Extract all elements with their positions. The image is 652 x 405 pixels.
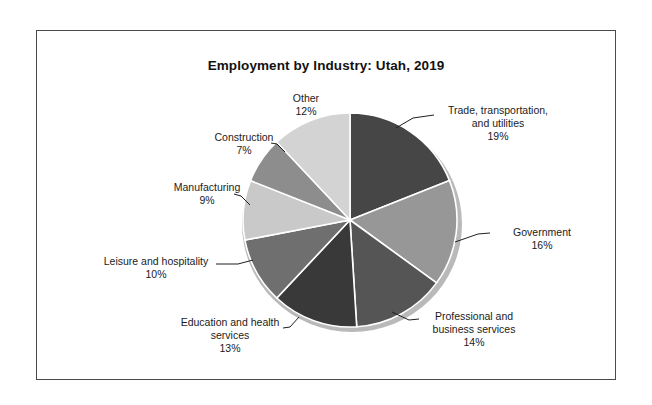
slice-label-other: Other 12% [250, 92, 362, 118]
slice-label-education: Education and health services 13% [170, 316, 290, 355]
pie-chart [0, 0, 652, 405]
slice-label-professional-name: Professional and [435, 310, 513, 322]
slice-label-education-name2: services [170, 329, 290, 342]
figure-canvas: Employment by Industry: Utah, 2019 Other… [0, 0, 652, 405]
slice-label-manufacturing-percent: 9% [148, 194, 266, 207]
slice-label-professional: Professional and business services 14% [413, 310, 535, 349]
slice-label-government-name: Government [513, 226, 571, 238]
slice-label-education-percent: 13% [170, 342, 290, 355]
slice-label-construction: Construction 7% [185, 131, 303, 157]
slice-label-trade-percent: 19% [428, 130, 568, 143]
slice-label-trade: Trade, transportation, and utilities 19% [428, 104, 568, 143]
slice-label-education-name: Education and health [181, 316, 280, 328]
slice-label-manufacturing: Manufacturing 9% [148, 181, 266, 207]
slice-label-leisure-percent: 10% [92, 268, 220, 281]
slice-label-leisure-name: Leisure and hospitality [104, 255, 208, 267]
leader-line-leisure [216, 260, 253, 264]
slice-label-leisure: Leisure and hospitality 10% [92, 255, 220, 281]
slice-label-trade-name: Trade, transportation, [448, 104, 548, 116]
slice-label-government-percent: 16% [484, 239, 600, 252]
slice-label-professional-percent: 14% [413, 336, 535, 349]
slice-label-professional-name2: business services [413, 323, 535, 336]
slice-label-other-name: Other [293, 92, 319, 104]
slice-label-manufacturing-name: Manufacturing [174, 181, 241, 193]
slice-label-government: Government 16% [484, 226, 600, 252]
slice-label-trade-name2: and utilities [428, 117, 568, 130]
slice-label-construction-percent: 7% [185, 144, 303, 157]
slice-label-construction-name: Construction [215, 131, 274, 143]
slice-label-other-percent: 12% [250, 105, 362, 118]
